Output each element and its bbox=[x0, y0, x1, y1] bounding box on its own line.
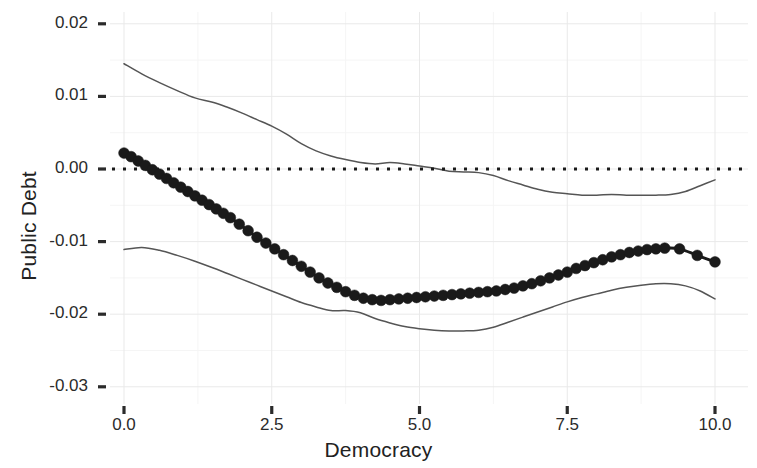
x-tick-label: 5.0 bbox=[380, 415, 460, 435]
x-axis-title: Democracy bbox=[0, 438, 757, 462]
y-tick-label: 0.02 bbox=[8, 13, 88, 33]
y-tick-label: -0.03 bbox=[8, 376, 88, 396]
x-tick-label: 10.0 bbox=[675, 415, 755, 435]
axis-tick-marks bbox=[98, 24, 715, 414]
y-tick-label: -0.01 bbox=[8, 231, 88, 251]
chart-figure: Public Debt Democracy 0.020.010.00-0.01-… bbox=[0, 0, 757, 468]
y-tick-label: 0.00 bbox=[8, 158, 88, 178]
y-tick-label: -0.02 bbox=[8, 303, 88, 323]
x-tick-label: 0.0 bbox=[84, 415, 164, 435]
x-tick-label: 2.5 bbox=[232, 415, 312, 435]
x-tick-label: 7.5 bbox=[527, 415, 607, 435]
plot-area bbox=[0, 0, 757, 468]
y-tick-label: 0.01 bbox=[8, 85, 88, 105]
y-axis-title: Public Debt bbox=[17, 126, 41, 326]
